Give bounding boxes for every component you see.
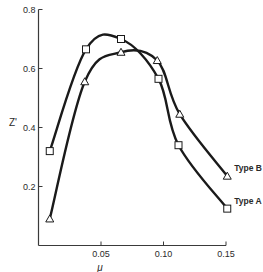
x-tick-label: 0.15 [217, 249, 235, 259]
curves [50, 34, 228, 218]
labels: 0.20.40.60.80.050.100.15μZ'Type AType B [9, 5, 262, 272]
square-marker-icon [83, 46, 90, 53]
triangle-marker-icon [81, 78, 89, 85]
legend-type-a: Type A [234, 196, 261, 206]
square-marker-icon [155, 75, 162, 82]
y-tick-label: 0.6 [23, 64, 36, 74]
curve-type-b [50, 50, 228, 219]
y-tick-label: 0.8 [23, 5, 36, 15]
chart: 0.20.40.60.80.050.100.15μZ'Type AType B [0, 0, 263, 272]
y-tick-label: 0.2 [23, 182, 36, 192]
square-marker-icon [46, 148, 53, 155]
x-axis-label: μ [96, 262, 103, 272]
markers [46, 36, 232, 222]
square-marker-icon [224, 205, 231, 212]
triangle-marker-icon [46, 215, 54, 222]
y-axis-label: Z' [9, 117, 17, 128]
square-marker-icon [118, 36, 125, 43]
curve-type-a [50, 34, 228, 208]
y-tick-label: 0.4 [23, 123, 36, 133]
x-tick-label: 0.10 [155, 249, 173, 259]
square-marker-icon [175, 142, 182, 149]
x-tick-label: 0.05 [92, 249, 110, 259]
legend-type-b: Type B [234, 163, 262, 173]
